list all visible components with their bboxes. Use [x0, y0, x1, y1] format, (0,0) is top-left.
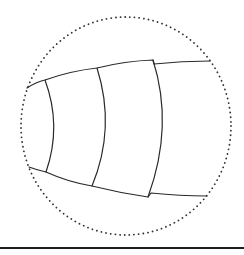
dotted-magnifier-circle: [21, 17, 231, 235]
body-outline-bottom: [29, 167, 207, 197]
body-outline-top: [27, 60, 210, 88]
segment-division-3: [148, 60, 162, 197]
segmented-body-illustration: [0, 0, 244, 255]
segment-division-2: [92, 68, 105, 186]
segment-division-1: [45, 80, 54, 172]
horizontal-rule: [0, 247, 244, 249]
